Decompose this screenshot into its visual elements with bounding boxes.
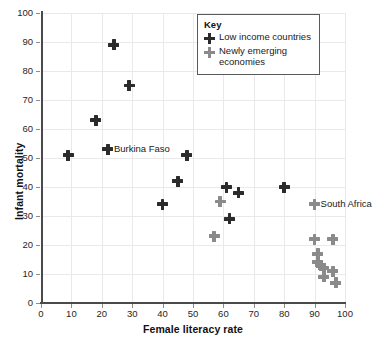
legend: Key Low income countries Newly emerging … xyxy=(197,14,320,75)
gridline-horizontal xyxy=(41,245,345,246)
y-axis-tick-label: 80 xyxy=(2,65,33,76)
plus-marker-icon xyxy=(204,33,215,44)
y-axis-tick-label: 70 xyxy=(2,94,33,105)
y-axis-tick xyxy=(36,303,40,304)
y-axis-tick-label: 90 xyxy=(2,36,33,47)
x-axis-tick-label: 40 xyxy=(148,308,178,319)
y-axis-title: Infant mortality xyxy=(13,143,25,220)
x-axis-tick-label: 60 xyxy=(208,308,238,319)
point-label: Burkina Faso xyxy=(114,143,170,154)
gridline-horizontal xyxy=(41,129,345,130)
gridline-horizontal xyxy=(41,187,345,188)
x-axis-tick-label: 20 xyxy=(87,308,117,319)
x-axis-tick-label: 50 xyxy=(178,308,208,319)
x-axis-tick-label: 70 xyxy=(239,308,269,319)
y-axis-tick xyxy=(36,274,40,275)
y-axis-tick xyxy=(36,158,40,159)
y-axis-tick xyxy=(36,100,40,101)
gridline-horizontal xyxy=(41,158,345,159)
legend-title: Key xyxy=(204,19,314,30)
legend-item-newly-emerging-economies: Newly emerging economies xyxy=(204,46,314,67)
x-axis-tick-label: 10 xyxy=(56,308,86,319)
y-axis-line xyxy=(41,11,43,304)
x-axis-title: Female literacy rate xyxy=(41,323,345,335)
legend-item-label: Newly emerging economies xyxy=(219,46,314,67)
y-axis-tick-label: 10 xyxy=(2,268,33,279)
x-axis-tick-label: 0 xyxy=(26,308,56,319)
x-axis-tick-label: 80 xyxy=(269,308,299,319)
x-axis-tick-label: 90 xyxy=(300,308,330,319)
y-axis-tick xyxy=(36,187,40,188)
legend-item-low-income-countries: Low income countries xyxy=(204,32,314,44)
gridline-horizontal xyxy=(41,274,345,275)
y-axis-tick-label: 100 xyxy=(2,7,33,18)
y-axis-tick xyxy=(36,245,40,246)
gridline-horizontal xyxy=(41,216,345,217)
gridline-horizontal xyxy=(41,100,345,101)
x-axis-tick-label: 30 xyxy=(117,308,147,319)
y-axis-tick xyxy=(36,13,40,14)
legend-item-label: Low income countries xyxy=(219,32,311,43)
scatter-chart: 0102030405060708090100010203040506070809… xyxy=(0,0,374,344)
gridline-vertical xyxy=(345,13,346,303)
x-axis-tick-label: 100 xyxy=(330,308,360,319)
y-axis-tick-label: 0 xyxy=(2,297,33,308)
point-label: South Africa xyxy=(321,198,372,209)
y-axis-tick-label: 60 xyxy=(2,123,33,134)
plus-marker-icon xyxy=(204,47,215,58)
y-axis-tick xyxy=(36,71,40,72)
y-axis-tick xyxy=(36,42,40,43)
y-axis-tick xyxy=(36,216,40,217)
y-axis-tick-label: 20 xyxy=(2,239,33,250)
y-axis-tick xyxy=(36,129,40,130)
